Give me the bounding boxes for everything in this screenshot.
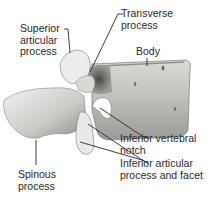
label-superior-articular-process: Superior articular process: [20, 23, 60, 58]
vertebra-diagram: Superior articular process Transverse pr…: [0, 0, 212, 207]
label-inferior-vertebral-notch: Inferior vertebral notch: [120, 133, 196, 156]
label-inferior-articular-process: Inferior articular process and facet: [120, 158, 203, 181]
label-body: Body: [136, 46, 160, 58]
label-transverse-process: Transverse process: [121, 8, 173, 31]
label-spinous-process: Spinous process: [18, 169, 56, 192]
